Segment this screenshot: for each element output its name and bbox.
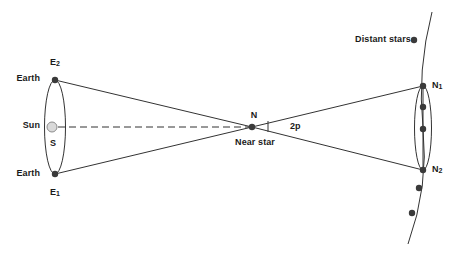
sightline-e1-to-n — [55, 127, 252, 174]
apparent-position-dot — [420, 126, 426, 132]
e2-label-subscript: 2 — [56, 60, 60, 67]
near-star-dot — [249, 124, 255, 130]
earth-bottom-label: Earth — [0, 169, 40, 178]
sun-disc — [47, 122, 57, 132]
e1-label-subscript: 1 — [56, 190, 60, 197]
distant-stars-label: Distant stars — [355, 35, 411, 44]
apparent-position-n2-dot — [420, 167, 426, 173]
n2-label-subscript: 2 — [439, 167, 443, 174]
sightline-e2-to-n — [55, 80, 252, 127]
sightline-n-to-n1 — [252, 86, 423, 127]
n1-label-text: N — [432, 80, 439, 90]
earth-position-e2-dot — [52, 77, 58, 83]
apparent-position-dot — [420, 104, 426, 110]
parallax-diagram: Earth Sun Earth E2 E1 S N Near star 2p D… — [0, 0, 459, 256]
apparent-position-n1-dot — [420, 83, 426, 89]
parallax-angle-label: 2p — [290, 122, 301, 131]
sun-label: Sun — [0, 121, 40, 130]
distant-star-dot — [411, 37, 417, 43]
e1-label: E1 — [50, 188, 60, 197]
n1-label-subscript: 1 — [439, 83, 443, 90]
near-star-label: Near star — [235, 138, 275, 147]
e2-label: E2 — [50, 58, 60, 67]
distant-star-dot — [416, 185, 422, 191]
distant-star-dot — [409, 210, 415, 216]
sun-symbol-label: S — [50, 139, 56, 148]
n1-label: N1 — [432, 81, 443, 90]
n2-label: N2 — [432, 165, 443, 174]
sightline-n-to-n2 — [252, 127, 423, 170]
earth-position-e1-dot — [52, 171, 58, 177]
earth-top-label: Earth — [0, 74, 40, 83]
n2-label-text: N — [432, 164, 439, 174]
near-star-point-label: N — [251, 111, 258, 120]
